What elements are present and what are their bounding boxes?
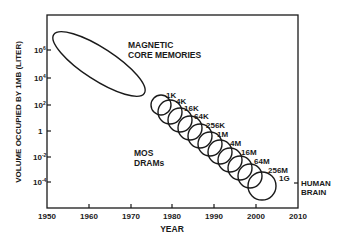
svg-text:10-4: 10-4 bbox=[33, 177, 47, 187]
x-tick-label: 1960 bbox=[80, 212, 98, 221]
x-tick-label: 1990 bbox=[205, 212, 223, 221]
svg-text:104: 104 bbox=[34, 73, 46, 83]
y-axis-label: VOLUME OCCUPIED BY 1MB (LITER) bbox=[14, 41, 23, 183]
dram-circles bbox=[151, 95, 276, 200]
svg-text:106: 106 bbox=[34, 45, 46, 55]
x-tick-label: 1980 bbox=[163, 212, 181, 221]
magnetic-core-ellipse bbox=[45, 21, 153, 107]
y-tick-label: 1 bbox=[38, 127, 43, 136]
dram-label: 4M bbox=[230, 139, 241, 148]
mos-drams-label: MOS DRAMs bbox=[134, 148, 164, 168]
dram-label: 1M bbox=[217, 130, 228, 139]
volume-per-mb-chart: 106 104 102 1 10-2 10-4 VOLUME OCCUPIED … bbox=[0, 0, 348, 249]
x-axis-label: YEAR bbox=[160, 224, 184, 234]
dram-label: 1G bbox=[279, 174, 290, 183]
dram-label: 16M bbox=[241, 148, 257, 157]
dram-label: 1K bbox=[166, 91, 176, 100]
magnetic-core-label: MAGNETIC CORE MEMORIES bbox=[128, 40, 202, 60]
svg-text:102: 102 bbox=[34, 100, 46, 110]
y-tick-labels: 106 104 102 1 10-2 10-4 bbox=[33, 45, 47, 187]
x-tick-label: 2000 bbox=[247, 212, 265, 221]
x-tick-label: 1950 bbox=[38, 212, 56, 221]
x-tick-label: 1970 bbox=[122, 212, 140, 221]
svg-text:10-2: 10-2 bbox=[33, 152, 47, 162]
dram-label: 64M bbox=[254, 157, 270, 166]
x-tick-label: 2010 bbox=[289, 212, 307, 221]
dram-label: 256K bbox=[206, 121, 225, 130]
x-tick-labels: 1950 1960 1970 1980 1990 2000 2010 bbox=[38, 212, 307, 221]
dram-label: 64K bbox=[194, 112, 209, 121]
svg-text:1: 1 bbox=[38, 127, 43, 136]
human-brain-label: HUMAN BRAIN bbox=[301, 179, 333, 197]
